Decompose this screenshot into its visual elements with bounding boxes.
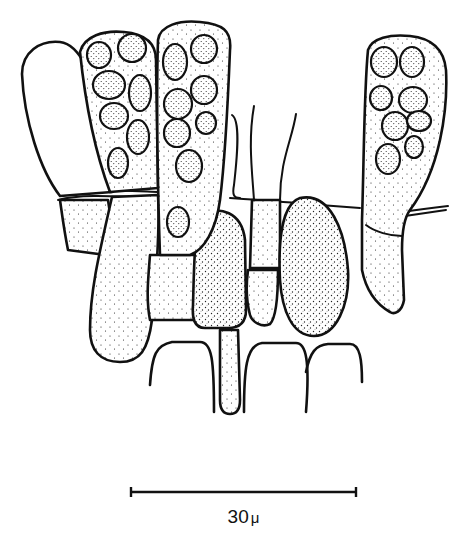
scale-unit: μ: [251, 509, 260, 526]
cell-illustration: [0, 0, 467, 546]
clavate-cell-right: [362, 36, 446, 314]
scale-value: 30: [228, 506, 249, 527]
basal-cells: [150, 330, 362, 414]
scale-bar: [131, 487, 356, 497]
scale-bar-label: 30μ: [0, 506, 467, 528]
